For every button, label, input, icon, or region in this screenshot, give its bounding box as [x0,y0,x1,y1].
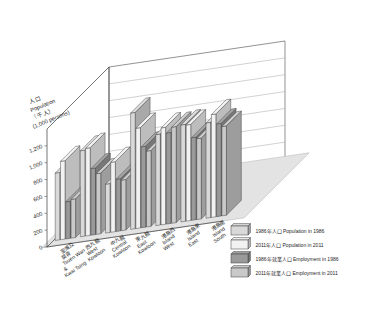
bar [222,111,241,216]
bar-front-face [60,161,65,240]
y-tick-label: 200 [32,227,43,236]
bar-front-face [71,199,76,238]
legend-item[interactable]: 2011年人口 Population in 2011 [231,238,324,250]
bar-front-face [186,124,191,221]
bar-front-face [206,122,211,218]
bar-front-face [86,148,91,236]
y-tick-label: 600 [32,194,43,203]
bar-front-face [146,150,151,227]
bar-front-face [222,126,227,216]
legend-swatch-top [231,224,250,226]
legend-swatch-side [248,238,250,249]
y-tick-label: 400 [32,211,43,220]
bar-front-face [106,184,111,234]
legend-item[interactable]: 1986年人口 Population in 1986 [231,224,325,236]
bar-front-face [217,123,222,216]
bar-front-face [197,138,202,220]
legend-label: 1986年人口 Population in 1986 [255,228,324,235]
bar-front-face [172,127,177,224]
y-tick-label: 1,200 [28,143,43,154]
legend-swatch-top [231,252,250,254]
bar-front-face [181,124,186,222]
bar-side-face [226,111,241,215]
y-tick-label: 1,000 [28,160,43,171]
bar-front-face [136,128,141,229]
legend-swatch [231,226,248,235]
legend-swatch-top [231,266,250,268]
chart-container: 02004006008001,0001,200 人口Population（千人）… [0,0,370,319]
bar-front-face [121,179,126,230]
bar-front-face [80,150,85,237]
legend-swatch [231,254,248,263]
legend-swatch [231,240,248,249]
y-axis-title: 人口Population（千人）(1,000 persons) [28,95,70,130]
bar-front-face [66,201,71,239]
legend-label: 2011年人口 Population in 2011 [255,242,323,249]
bar-front-face [55,172,60,240]
legend-swatch [231,268,248,277]
bar-front-face [211,114,216,218]
bar-front-face [91,168,96,235]
bar-front-face [191,137,196,220]
legend-swatch-top [231,238,250,240]
legend-swatch-side [248,252,250,263]
bar-front-face [156,134,161,226]
bar-chart-3d: 02004006008001,0001,200 人口Population（千人）… [0,0,370,319]
bar-front-face [131,112,136,229]
y-axis-tick-labels: 02004006008001,0001,200 [28,143,43,251]
legend-item[interactable]: 1986年就業人口 Employment in 1986 [231,252,339,264]
bar-front-face [111,162,116,233]
legend-label: 1986年就業人口 Employment in 1986 [255,256,338,263]
legend: 1986年人口 Population in 19862011年人口 Popula… [231,224,339,278]
bar-front-face [166,132,171,224]
legend-label: 2011年就業人口 Employment in 2011 [255,270,338,277]
legend-swatch-side [248,266,250,277]
y-tick-label: 800 [32,177,43,186]
bar-front-face [116,179,121,232]
bar-front-face [96,173,101,234]
bar-front-face [141,146,146,228]
bar-front-face [161,127,166,225]
legend-swatch-side [248,224,250,235]
legend-item[interactable]: 2011年就業人口 Employment in 2011 [231,266,338,278]
